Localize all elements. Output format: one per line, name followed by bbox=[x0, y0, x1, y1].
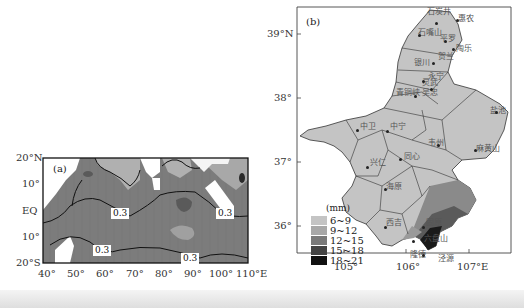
station-dot bbox=[399, 158, 402, 161]
station-label: 贺兰 bbox=[438, 50, 454, 61]
panel-b: (b) 39°N 38° 37° 36° 105° 106° 107°E 石炭井… bbox=[262, 0, 524, 290]
station-label: 石炭井 bbox=[427, 5, 451, 16]
contour-label: 0.3 bbox=[181, 253, 199, 264]
station-label: 石嘴山 bbox=[418, 26, 442, 37]
station-dot bbox=[384, 188, 387, 191]
y-tick: 20°S bbox=[16, 257, 41, 268]
legend-swatch bbox=[311, 216, 327, 225]
legend-item: 12~15 bbox=[311, 235, 364, 245]
page-bottom-shadow bbox=[0, 290, 524, 308]
station-label: 盐池 bbox=[490, 104, 506, 115]
contour-label: 0.3 bbox=[216, 208, 234, 219]
y-tick: 39°N bbox=[267, 28, 293, 39]
station-label: 陶乐 bbox=[456, 42, 472, 53]
y-tick: 36° bbox=[274, 220, 292, 231]
station-dot bbox=[495, 111, 498, 114]
station-label: 泾源 bbox=[438, 252, 454, 263]
station-dot bbox=[412, 240, 415, 243]
station-dot bbox=[386, 130, 389, 133]
x-tick: 107°E bbox=[457, 261, 488, 272]
station-dot bbox=[430, 88, 433, 91]
station-dot bbox=[384, 226, 387, 229]
legend-swatch bbox=[311, 256, 327, 265]
y-tick: 38° bbox=[274, 92, 292, 103]
panel-a: (a) 20°N 10° EQ 10° 20°S 40° 50° 60° 70°… bbox=[0, 150, 262, 290]
station-dot bbox=[456, 19, 459, 22]
station-dot bbox=[452, 48, 455, 51]
y-tick: EQ bbox=[22, 205, 38, 216]
station-dot bbox=[474, 149, 477, 152]
station-dot bbox=[444, 40, 447, 43]
station-dot bbox=[366, 166, 369, 169]
legend-swatch bbox=[311, 236, 327, 245]
x-tick: 90° bbox=[184, 268, 202, 279]
station-label: 海原 bbox=[386, 180, 402, 191]
y-tick: 20°N bbox=[16, 152, 42, 163]
station-dot bbox=[414, 95, 417, 98]
station-dot bbox=[422, 254, 425, 257]
station-label: 惠农 bbox=[458, 12, 474, 23]
station-dot bbox=[422, 80, 425, 83]
station-dot bbox=[422, 226, 425, 229]
station-label: 兴仁 bbox=[370, 156, 386, 167]
station-dot bbox=[432, 62, 435, 65]
contour-label: 0.3 bbox=[111, 208, 129, 219]
x-tick: 80° bbox=[155, 268, 173, 279]
station-dot bbox=[356, 129, 359, 132]
legend-item: 18~21 bbox=[311, 255, 364, 265]
legend-item: 15~18 bbox=[311, 245, 364, 255]
legend-swatch bbox=[311, 226, 327, 235]
station-dot bbox=[435, 22, 438, 25]
station-label: 同心 bbox=[404, 150, 420, 161]
contour-label: 0.3 bbox=[93, 245, 111, 256]
legend-title: (mm) bbox=[326, 203, 350, 213]
x-tick: 50° bbox=[67, 268, 85, 279]
legend-item: 9~12 bbox=[311, 225, 357, 235]
legend-item: 6~9 bbox=[311, 215, 351, 225]
x-tick: 100° bbox=[209, 268, 233, 279]
station-label: 中卫 bbox=[360, 120, 376, 131]
station-label: 中宁 bbox=[390, 120, 406, 131]
station-label: 银川 bbox=[414, 56, 430, 67]
panel-b-label: (b) bbox=[306, 16, 320, 27]
y-tick: 10° bbox=[22, 178, 40, 189]
panel-a-label: (a) bbox=[53, 163, 67, 174]
y-tick: 10° bbox=[22, 231, 40, 242]
station-dot bbox=[418, 34, 421, 37]
x-tick: 70° bbox=[126, 268, 144, 279]
station-label: 韦州 bbox=[428, 136, 444, 147]
station-label: 平罗 bbox=[440, 32, 456, 43]
x-tick: 40° bbox=[38, 268, 56, 279]
station-label: 六盘山 bbox=[424, 232, 448, 243]
station-label: 固原 bbox=[426, 216, 442, 227]
legend-swatch bbox=[311, 246, 327, 255]
y-tick: 37° bbox=[274, 156, 292, 167]
x-tick: 60° bbox=[96, 268, 114, 279]
legend-label: 18~21 bbox=[330, 255, 364, 266]
station-dot bbox=[437, 144, 440, 147]
station-label: 西吉 bbox=[386, 216, 402, 227]
x-tick: 106° bbox=[396, 261, 420, 272]
station-label: 麻黄山 bbox=[476, 142, 500, 153]
